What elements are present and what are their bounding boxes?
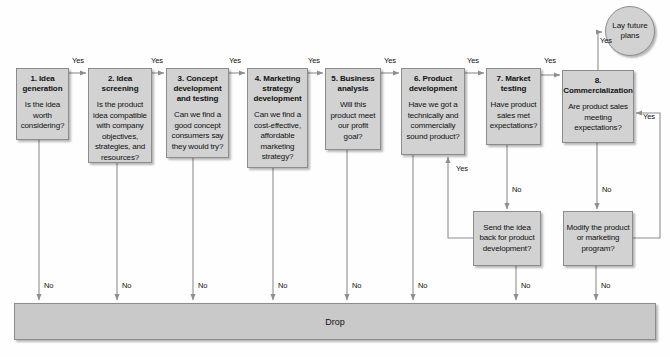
stage-box-product-development[interactable]: 6. Product development Have we got a tec… (401, 68, 465, 155)
drop-label: Drop (325, 317, 345, 327)
stage-box-market-testing[interactable]: 7. Market testing Have product sales met… (486, 68, 541, 145)
no-label: No (44, 281, 53, 290)
rework-box-text: Send the idea back for product developme… (476, 223, 538, 255)
stage-box-business-analysis[interactable]: 5. Business analysis Will this product m… (325, 68, 381, 150)
stage-question: Can we find a good concept consumers say… (170, 110, 225, 152)
stage-question: Have we got a technically and commercial… (405, 100, 461, 142)
stage-question: Have product sales met expectations? (490, 100, 537, 132)
stage-box-idea-screening[interactable]: 2. Idea screening Is the product idea co… (88, 68, 152, 163)
terminal-label: Lay future plans (606, 21, 654, 41)
stage-title: 5. Business analysis (329, 74, 377, 94)
wire-feedback-rework2-to-8 (633, 113, 660, 238)
stage-box-marketing-strategy-development[interactable]: 4. Marketing strategy development Can we… (247, 68, 308, 168)
yes-label: Yes (384, 56, 396, 65)
stage-question: Can we find a cost-effective, affordable… (251, 110, 304, 163)
stage-question: Are product sales meeting expectations? (566, 102, 630, 134)
yes-label: Yes (151, 56, 163, 65)
no-label: No (352, 281, 361, 290)
no-label: No (198, 281, 207, 290)
no-label: No (602, 185, 611, 194)
no-label: No (521, 281, 530, 290)
stage-box-commercialization[interactable]: 8. Commercialization Are product sales m… (562, 70, 634, 143)
stage-title: 3. Concept development and testing (170, 74, 225, 104)
stage-title: 2. Idea screening (92, 74, 148, 94)
stage-title: 1. Idea generation (20, 74, 65, 94)
yes-label: Yes (72, 56, 84, 65)
stage-question: Is the product idea compatible with comp… (92, 100, 148, 163)
stage-box-concept-development-and-testing[interactable]: 3. Concept development and testing Can w… (166, 68, 229, 158)
no-label: No (278, 281, 287, 290)
yes-label: Yes (308, 56, 320, 65)
drop-bar: Drop (14, 303, 656, 340)
stage-title: 6. Product development (405, 74, 461, 94)
stage-question: Is the idea worth considering? (20, 100, 65, 132)
stage-title: 7. Market testing (490, 74, 537, 94)
no-label: No (418, 281, 427, 290)
rework-box-modify-product[interactable]: Modify the product or marketing program? (563, 211, 633, 266)
stage-question: Will this product meet our profit goal? (329, 100, 377, 142)
stage-title: 4. Marketing strategy development (251, 74, 304, 104)
yes-label: Yes (600, 36, 612, 45)
yes-label: Yes (643, 112, 655, 121)
no-label: No (122, 281, 131, 290)
stage-box-idea-generation[interactable]: 1. Idea generation Is the idea worth con… (16, 68, 69, 140)
rework-box-text: Modify the product or marketing program? (566, 223, 630, 255)
rework-box-send-idea-back[interactable]: Send the idea back for product developme… (473, 211, 541, 266)
yes-label: Yes (456, 164, 468, 173)
yes-label: Yes (544, 56, 556, 65)
stage-title: 8. Commercialization (563, 76, 632, 96)
no-label: No (601, 281, 610, 290)
yes-label: Yes (229, 56, 241, 65)
flowchart-canvas: 1. Idea generation Is the idea worth con… (0, 0, 670, 357)
no-label: No (512, 185, 521, 194)
terminal-lay-future-plans[interactable]: Lay future plans (605, 6, 655, 56)
yes-label: Yes (467, 56, 479, 65)
